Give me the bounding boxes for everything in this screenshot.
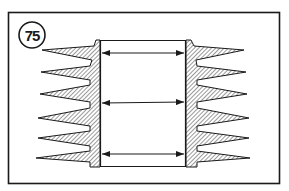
- measurement-arrow-middle: [102, 102, 184, 103]
- left-cylinder-wall: [36, 40, 100, 167]
- cylinder-diagram: 75: [0, 0, 289, 191]
- figure-number: 75: [25, 27, 40, 44]
- figure-number-badge: 75: [19, 22, 45, 48]
- right-cylinder-wall: [186, 40, 250, 167]
